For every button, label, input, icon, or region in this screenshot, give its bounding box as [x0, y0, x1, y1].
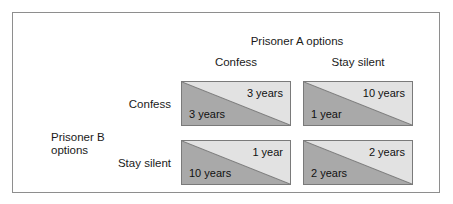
row-header-stay-silent: Stay silent	[118, 157, 171, 169]
column-header-confess: Confess	[181, 56, 291, 68]
payoff-cell: 3 years 3 years	[181, 81, 291, 126]
row-header-confess-wrap: Confess	[61, 98, 171, 111]
payoff-upper-value: 2 years	[369, 146, 405, 158]
diagram-frame: Prisoner A options Confess Stay silent P…	[12, 12, 440, 193]
row-header-confess: Confess	[129, 98, 171, 110]
row-group-label-line-2: options	[51, 144, 141, 157]
payoff-upper-value: 10 years	[363, 87, 405, 99]
payoff-lower-value: 2 years	[311, 167, 347, 179]
column-header-stay-silent: Stay silent	[303, 56, 413, 68]
payoff-lower-value: 1 year	[311, 108, 342, 120]
row-group-label: Prisoner B options	[51, 131, 141, 157]
payoff-cell: 1 year 10 years	[181, 140, 291, 185]
row-group-label-line-1: Prisoner B	[51, 131, 141, 144]
payoff-upper-value: 3 years	[247, 87, 283, 99]
payoff-cell: 10 years 1 year	[303, 81, 413, 126]
row-header-stay-silent-wrap: Stay silent	[61, 157, 171, 170]
payoff-lower-value: 3 years	[189, 108, 225, 120]
column-group-label: Prisoner A options	[181, 35, 413, 47]
payoff-cell: 2 years 2 years	[303, 140, 413, 185]
prisoners-dilemma-diagram: Prisoner A options Confess Stay silent P…	[0, 0, 453, 204]
payoff-upper-value: 1 year	[252, 146, 283, 158]
payoff-lower-value: 10 years	[189, 167, 231, 179]
